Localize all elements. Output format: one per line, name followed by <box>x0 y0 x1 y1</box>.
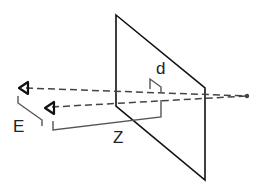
label-d: d <box>156 60 165 77</box>
label-e: E <box>13 118 24 135</box>
ray-bottom <box>52 96 247 107</box>
target-point-icon <box>245 94 249 98</box>
stereo-diagram: d E Z <box>0 0 263 193</box>
label-z: Z <box>113 129 123 146</box>
ray-top <box>26 88 247 96</box>
diagram-svg <box>0 0 263 193</box>
eye-right-icon <box>45 102 54 114</box>
projection-plane <box>116 15 205 180</box>
bracket-d <box>150 79 161 92</box>
